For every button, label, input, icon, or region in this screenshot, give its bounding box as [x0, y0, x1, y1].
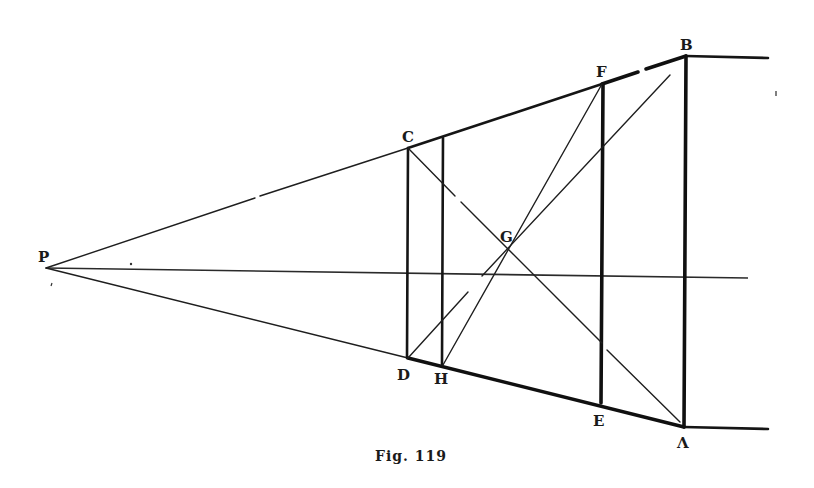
diagonal-d-b-1	[408, 292, 468, 358]
vertical-b-a	[684, 56, 686, 427]
vertical-h	[442, 138, 443, 365]
stray-mark	[130, 263, 132, 265]
label-g: G	[500, 228, 513, 246]
line-p-d	[46, 268, 408, 358]
label-b: B	[680, 36, 693, 54]
perspective-diagram: P C D H G F E B Λ Fig. 119	[0, 0, 814, 488]
label-c: C	[402, 128, 414, 146]
line-d-a	[408, 358, 684, 427]
vertical-c-d	[407, 148, 408, 358]
line-p-c	[46, 198, 255, 268]
label-h: H	[434, 370, 448, 388]
line-b-right	[686, 56, 768, 58]
line-a-right	[684, 427, 768, 429]
label-d: D	[397, 366, 410, 384]
figure-caption: Fig. 119	[375, 448, 447, 464]
diagonal-c-a-1	[408, 148, 455, 196]
label-a: Λ	[676, 434, 689, 452]
line-f-gap	[602, 72, 638, 84]
label-p: P	[38, 248, 49, 266]
horizontal-axis	[46, 268, 748, 278]
line-p-c-2	[260, 148, 408, 196]
line-c-f	[408, 84, 602, 148]
line-gap-b	[646, 56, 686, 69]
diagonal-h-f	[443, 84, 602, 365]
stray-mark-2	[51, 283, 52, 286]
label-f: F	[596, 63, 607, 81]
vertical-f-e	[601, 84, 603, 403]
label-e: E	[593, 412, 604, 430]
